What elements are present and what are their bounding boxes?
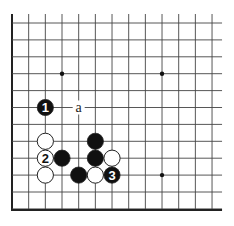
stone-move-number: 2 [42,151,49,166]
stone-move-number: 3 [108,168,115,183]
black-stone-icon [87,133,103,149]
black-stone [54,150,70,166]
black-stone-3: 3 [104,167,120,183]
white-stone-icon [37,167,53,183]
go-board: a 123 [0,0,234,226]
white-stone [87,167,103,183]
white-stone [37,133,53,149]
white-stone-2: 2 [37,150,53,166]
board-markers: a [73,100,85,115]
stone-move-number: 1 [42,100,49,115]
star-point-icon [160,173,164,177]
black-stone [87,150,103,166]
black-stone-icon [87,150,103,166]
white-stone-icon [87,167,103,183]
white-stone-icon [37,133,53,149]
white-stone [37,167,53,183]
star-point-icon [60,72,64,76]
marker-label-a: a [76,100,83,115]
black-stone-icon [71,167,87,183]
white-stone [104,150,120,166]
black-stone-icon [54,150,70,166]
black-stone [87,133,103,149]
black-stone-1: 1 [37,99,53,115]
white-stone-icon [104,150,120,166]
star-point-icon [160,72,164,76]
black-stone [71,167,87,183]
